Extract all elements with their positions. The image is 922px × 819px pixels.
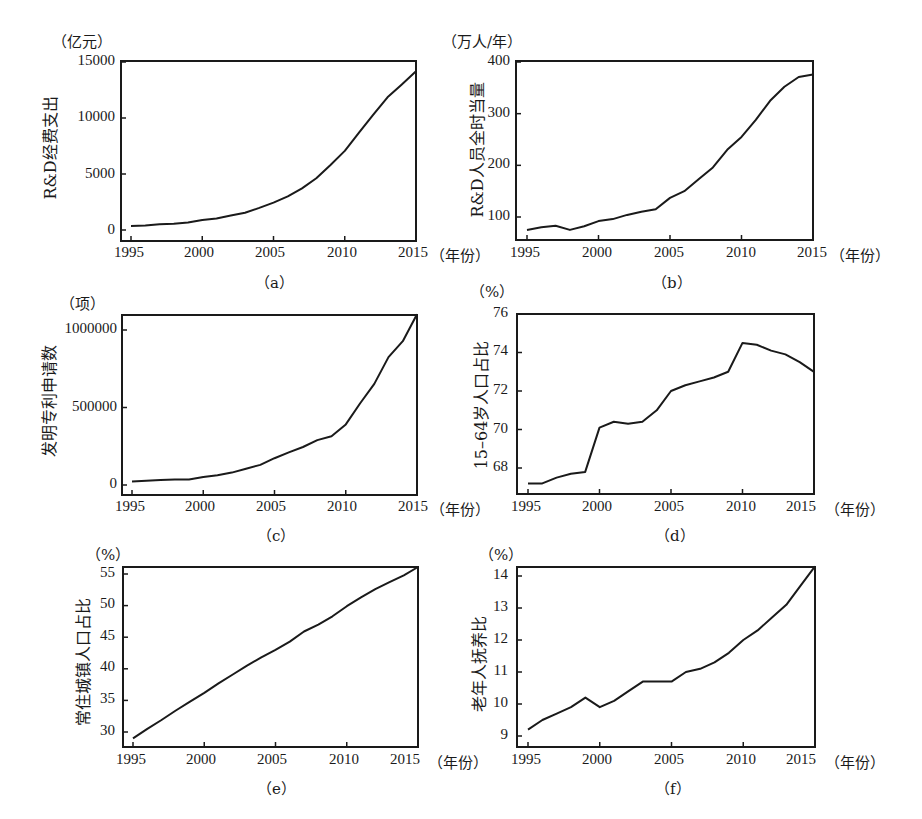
panel-caption: （f） <box>655 777 691 798</box>
data-line <box>528 566 815 729</box>
x-unit-label: （年份） <box>825 751 885 772</box>
x-tick: 2015 <box>786 751 816 768</box>
x-tick: 2010 <box>726 751 756 768</box>
x-tick: 2000 <box>582 751 612 768</box>
plot-area <box>0 0 922 819</box>
x-tick: 2005 <box>654 751 684 768</box>
x-tick: 1995 <box>511 751 541 768</box>
